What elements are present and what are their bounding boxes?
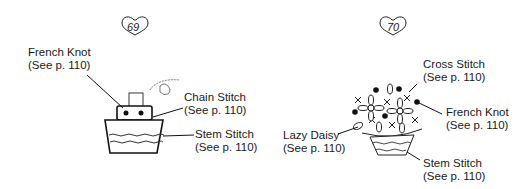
figure-70: 70 Cross Stitch (See p. 110) French Knot… [266,0,532,189]
label-chain-stitch: Chain Stitch (See p. 110) [184,91,246,117]
label-stem-stitch: Stem Stitch (See p. 110) [195,128,257,154]
label-cross-stitch: Cross Stitch (See p. 110) [423,58,485,84]
figure-number: 70 [378,21,408,33]
figure-69: 69 French Knot (See p. 110) Chain Stitch… [0,0,266,189]
label-lazy-daisy: Lazy Daisy (See p. 110) [283,129,345,155]
label-stem-stitch: Stem Stitch (See p. 110) [423,157,485,183]
figure-number: 69 [118,21,148,33]
label-french-knot: French Knot (See p. 110) [446,106,509,132]
label-french-knot: French Knot (See p. 110) [28,46,91,72]
